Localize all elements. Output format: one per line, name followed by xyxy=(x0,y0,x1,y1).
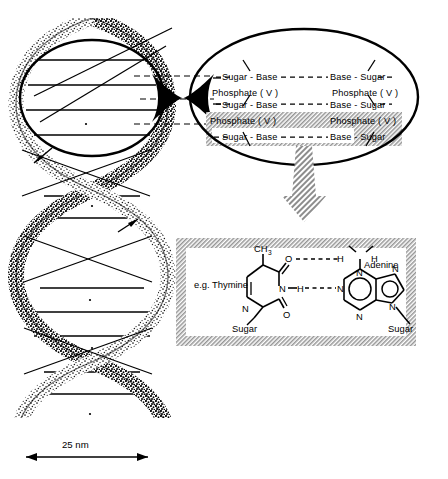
callout-row-2-right: Base - Sugar xyxy=(330,132,385,142)
amine-n-label: N xyxy=(356,267,363,278)
scale-bar-label: 25 nm xyxy=(62,439,89,450)
dna-structure-figure: Sugar - Base Base - Sugar Phosphate ( V … xyxy=(0,0,448,479)
methyl-label: CH xyxy=(254,243,268,254)
amine-h-left-label: H xyxy=(337,253,344,264)
callout-phosphate-1-right: Phosphate ( V ) xyxy=(330,116,396,126)
callout-row-2-left: Sugar - Base xyxy=(222,132,277,142)
thymine-n1-label: N xyxy=(242,303,249,314)
callout-row-0-right: Base - Sugar xyxy=(330,72,385,82)
amine-h-right-label: H xyxy=(371,253,378,264)
adenine-n7-label: N xyxy=(392,263,399,274)
thymine-label: e.g. Thymine xyxy=(194,279,248,290)
sugar-label-right: Sugar xyxy=(388,323,413,334)
thymine-h-label: H xyxy=(297,283,304,294)
oxygen-bottom-label: O xyxy=(283,309,290,320)
thymine-n3-label: N xyxy=(279,283,286,294)
callout-row-1-right: Base - Sugar xyxy=(330,100,385,110)
callout-phosphate-0-left: Phosphate ( V ) xyxy=(212,88,278,98)
callout-row-0-left: Sugar - Base xyxy=(222,72,277,82)
callout-phosphate-1-left: Phosphate ( V ) xyxy=(210,116,276,126)
adenine-n9-label: N xyxy=(389,301,396,312)
sugar-label-left: Sugar xyxy=(232,323,257,334)
methyl-subscript: 3 xyxy=(268,249,272,256)
text-layer: Sugar - Base Base - Sugar Phosphate ( V … xyxy=(0,0,448,479)
adenine-n3-label: N xyxy=(356,311,363,322)
adenine-n1-label: N xyxy=(337,283,344,294)
callout-row-1-left: Sugar - Base xyxy=(222,100,277,110)
callout-phosphate-0-right: Phosphate ( V ) xyxy=(332,88,398,98)
oxygen-top-label: O xyxy=(285,253,292,264)
